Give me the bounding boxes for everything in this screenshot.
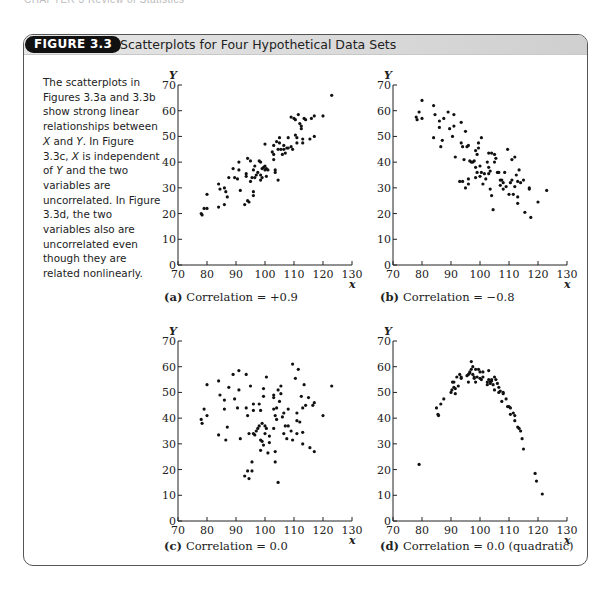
- x-tick-label: 120: [313, 524, 334, 537]
- scatter-svg: 010203040506070708090100110120130Yx: [365, 66, 580, 286]
- plot-caption-c: (c) Correlation = 0.0: [164, 539, 288, 553]
- scatter-plot-c: 010203040506070708090100110120130Yx: [150, 322, 365, 542]
- y-tick-label: 20: [162, 464, 176, 477]
- y-axis-label: Y: [169, 69, 178, 82]
- x-tick-label: 80: [200, 524, 214, 537]
- x-tick-label: 100: [470, 268, 491, 281]
- data-points: [418, 360, 544, 496]
- y-tick-label: 40: [377, 412, 391, 425]
- y-tick-label: 30: [377, 182, 391, 195]
- y-tick-label: 60: [162, 361, 176, 374]
- scatter-svg: 010203040506070708090100110120130Yx: [150, 322, 365, 542]
- y-tick-label: 60: [162, 105, 176, 118]
- y-tick-label: 10: [162, 489, 176, 502]
- plot-caption-b: (b) Correlation = −0.8: [380, 290, 515, 304]
- figure-header: FIGURE 3.3 Scatterplots for Four Hypothe…: [24, 35, 587, 55]
- y-tick-label: 50: [377, 386, 391, 399]
- x-tick-label: 110: [284, 268, 305, 281]
- figure-label: FIGURE 3.3: [25, 36, 121, 53]
- y-tick-label: 30: [377, 438, 391, 451]
- y-tick-label: 20: [377, 208, 391, 221]
- figure-caption: The scatterplots in Figures 3.3a and 3.3…: [43, 75, 161, 281]
- x-tick-label: 90: [444, 524, 458, 537]
- y-tick-label: 60: [377, 361, 391, 374]
- x-tick-label: 80: [200, 268, 214, 281]
- x-tick-label: 120: [528, 268, 549, 281]
- y-tick-label: 10: [377, 489, 391, 502]
- scatter-svg: 010203040506070708090100110120130Yx: [150, 66, 365, 286]
- y-tick-label: 10: [162, 233, 176, 246]
- y-tick-label: 40: [162, 412, 176, 425]
- axes: [178, 85, 352, 265]
- y-tick-label: 40: [377, 156, 391, 169]
- y-tick-label: 30: [162, 438, 176, 451]
- y-axis-label: Y: [384, 325, 393, 338]
- x-tick-label: 70: [171, 524, 185, 537]
- y-axis-label: Y: [169, 325, 178, 338]
- x-tick-label: 70: [386, 268, 400, 281]
- x-tick-label: 70: [386, 524, 400, 537]
- plot-caption-d: (d) Correlation = 0.0 (quadratic): [380, 539, 574, 553]
- y-tick-label: 50: [377, 130, 391, 143]
- data-points: [415, 99, 549, 219]
- y-tick-label: 10: [377, 233, 391, 246]
- y-tick-label: 30: [162, 182, 176, 195]
- x-tick-label: 90: [229, 524, 243, 537]
- y-tick-label: 50: [162, 386, 176, 399]
- scatter-svg: 010203040506070708090100110120130Yx: [365, 322, 580, 542]
- x-tick-label: 70: [171, 268, 185, 281]
- x-tick-label: 90: [229, 268, 243, 281]
- x-tick-label: 80: [415, 524, 429, 537]
- scatter-plot-d: 010203040506070708090100110120130Yx: [365, 322, 580, 542]
- x-tick-label: 100: [470, 524, 491, 537]
- x-tick-label: 110: [284, 524, 305, 537]
- x-tick-label: 100: [255, 268, 276, 281]
- y-axis-label: Y: [384, 69, 393, 82]
- x-tick-label: 80: [415, 268, 429, 281]
- scatter-plot-b: 010203040506070708090100110120130Yx: [365, 66, 580, 286]
- x-tick-label: 100: [255, 524, 276, 537]
- x-tick-label: 90: [444, 268, 458, 281]
- x-tick-label: 120: [528, 524, 549, 537]
- x-tick-label: 120: [313, 268, 334, 281]
- figure-title: Scatterplots for Four Hypothetical Data …: [120, 35, 396, 54]
- x-axis-label: x: [563, 278, 571, 291]
- x-axis-label: x: [348, 534, 356, 547]
- y-tick-label: 20: [162, 208, 176, 221]
- x-tick-label: 110: [499, 524, 520, 537]
- data-points: [200, 94, 334, 217]
- y-tick-label: 50: [162, 130, 176, 143]
- scatter-plot-a: 010203040506070708090100110120130Yx: [150, 66, 365, 286]
- axes: [178, 341, 352, 521]
- y-tick-label: 60: [377, 105, 391, 118]
- data-points: [200, 363, 334, 485]
- x-axis-label: x: [348, 278, 356, 291]
- x-tick-label: 110: [499, 268, 520, 281]
- running-head: CHAPTER 3 Review of Statistics: [24, 0, 185, 5]
- y-tick-label: 40: [162, 156, 176, 169]
- plot-caption-a: (a) Correlation = +0.9: [164, 290, 298, 304]
- y-tick-label: 20: [377, 464, 391, 477]
